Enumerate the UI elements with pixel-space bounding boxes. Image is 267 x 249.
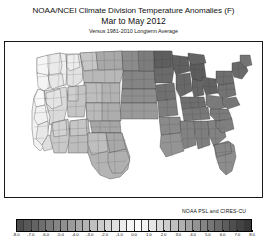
colorbar-tick-15: 7.0 [234, 232, 240, 237]
colorbar-tick-3: -5.0 [57, 232, 64, 237]
colorbar-cell-29 [230, 220, 237, 231]
colorbar-cell-28 [223, 220, 230, 231]
colorbar-tick-16: 8.0 [249, 232, 255, 237]
colorbar-tick-13: 5.0 [205, 232, 211, 237]
division-missouri [158, 99, 178, 117]
division-new-mexico-north [70, 119, 87, 136]
colorbar-cell-6 [61, 220, 68, 231]
colorbar-tick-5: -3.0 [86, 232, 93, 237]
us-climate-division-choropleth [4, 41, 263, 198]
figure-title-block: NOAA/NCEI Climate Division Temperature A… [0, 6, 267, 35]
colorbar-tick-6: -2.0 [101, 232, 108, 237]
colorbar-cell-26 [208, 220, 215, 231]
colorbar-tick-11: 3.0 [175, 232, 181, 237]
division-iowa [156, 83, 176, 101]
figure-subtitle: Mar to May 2012 [0, 16, 267, 27]
colorbar-tick-7: -1.0 [116, 232, 123, 237]
attribution-label: NOAA PSL and CIRES-CU [182, 208, 246, 214]
figure-title: NOAA/NCEI Climate Division Temperature A… [0, 6, 267, 16]
division-nd-east [138, 51, 155, 71]
colorbar-cell-2 [32, 220, 39, 231]
colorbar-tick-0: -8.0 [12, 232, 19, 237]
colorbar-cell-14 [120, 220, 127, 231]
colorbar-tick-12: 4.0 [190, 232, 196, 237]
figure-baseline-note: Versus 1981-2010 Longterm Average [0, 27, 267, 35]
division-south-dakota [122, 71, 156, 89]
colorbar-cell-0 [17, 220, 24, 231]
colorbar-cell-31 [245, 220, 251, 231]
colorbar-tick-1: -7.0 [27, 232, 34, 237]
colorbar-tick-4: -4.0 [71, 232, 78, 237]
colorbar-cell-30 [237, 220, 244, 231]
colorbar-tick-10: 2.0 [161, 232, 167, 237]
colorbar-cell-10 [90, 220, 97, 231]
colorbar-tick-14: 6.0 [220, 232, 226, 237]
division-michigan-upper [188, 53, 206, 65]
colorbar-cell-8 [76, 220, 83, 231]
climate-division-map [4, 41, 263, 198]
division-arizona-north [52, 120, 67, 137]
figure-canvas: NOAA/NCEI Climate Division Temperature A… [0, 0, 267, 249]
colorbar-tick-labels: -8.0-7.0-6.0-5.0-4.0-3.0-2.0-1.00.01.02.… [16, 232, 252, 241]
colorbar-cell-24 [193, 220, 200, 231]
division-arkansas [159, 117, 182, 135]
division-kentucky [180, 97, 206, 109]
colorbar-cell-12 [105, 220, 112, 231]
division-utah-north [68, 86, 78, 101]
colorbar-tick-2: -6.0 [42, 232, 49, 237]
colorbar-cell-4 [46, 220, 53, 231]
colorbar-cell-18 [149, 220, 156, 231]
colorbar-cell-16 [135, 220, 142, 231]
colorbar-cell-20 [164, 220, 171, 231]
colorbar-tick-9: 1.0 [146, 232, 152, 237]
colorbar-cell-22 [179, 220, 186, 231]
colorbar-tick-8: 0.0 [131, 232, 137, 237]
